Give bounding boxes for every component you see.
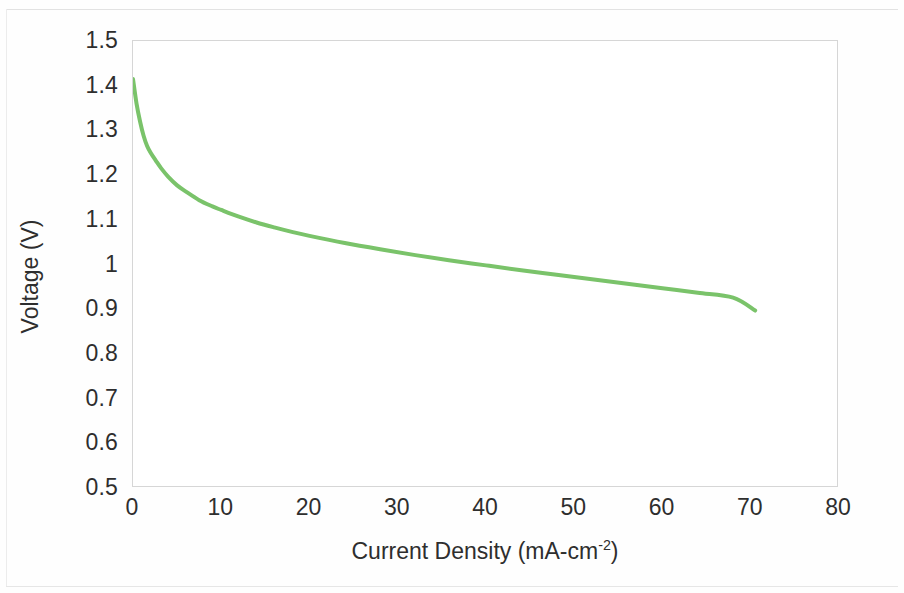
x-tick-label: 40: [472, 496, 498, 519]
x-axis-title-exponent: -2: [598, 537, 611, 553]
x-tick-label: 50: [560, 496, 586, 519]
x-axis-title-main: Current Density (mA-cm: [352, 538, 599, 564]
figure-root: 0.50.60.70.80.911.11.21.31.41.5 Voltage …: [0, 0, 904, 593]
y-tick-label: 1.4: [85, 73, 118, 96]
y-tick-label: 0.6: [85, 431, 118, 454]
y-tick-label: 1.2: [85, 163, 118, 186]
x-tick-label: 0: [126, 496, 139, 519]
page-edge-left: [6, 9, 7, 587]
y-tick-label: 0.8: [85, 341, 118, 364]
plot-area: [132, 40, 838, 487]
y-tick-label: 1.3: [85, 118, 118, 141]
x-tick-label: 30: [384, 496, 410, 519]
y-tick-label: 1: [105, 252, 118, 275]
y-tick-label: 1.5: [85, 29, 118, 52]
x-tick-label: 70: [737, 496, 763, 519]
page-edge-top: [6, 9, 898, 10]
x-tick-label: 80: [825, 496, 851, 519]
polarization-curve-line: [133, 79, 755, 311]
y-axis-title: Voltage (V): [17, 187, 44, 367]
x-tick-label: 20: [296, 496, 322, 519]
page-edge-bottom: [6, 586, 898, 587]
y-tick-label: 0.5: [85, 476, 118, 499]
x-tick-label: 10: [207, 496, 233, 519]
line-chart-svg: [133, 41, 839, 488]
y-axis-tick-labels: 0.50.60.70.80.911.11.21.31.41.5: [56, 40, 126, 487]
y-tick-label: 1.1: [85, 207, 118, 230]
x-axis-title: Current Density (mA-cm-2): [132, 538, 838, 565]
y-tick-label: 0.9: [85, 297, 118, 320]
y-tick-label: 0.7: [85, 386, 118, 409]
x-axis-title-suffix: ): [611, 538, 619, 564]
x-axis-tick-labels: 01020304050607080: [132, 496, 838, 530]
x-tick-label: 60: [649, 496, 675, 519]
